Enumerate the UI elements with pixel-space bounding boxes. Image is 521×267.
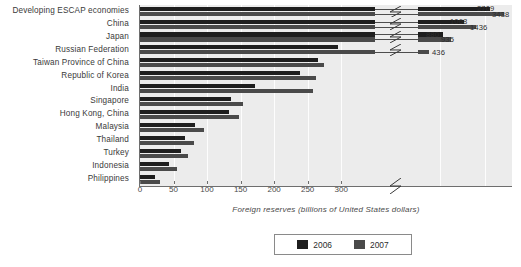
x-tick-label: 150 xyxy=(234,185,247,194)
value-label: 935 xyxy=(441,35,454,44)
bar-2006 xyxy=(140,136,185,140)
bar-row xyxy=(140,96,512,109)
value-label: 880 xyxy=(426,30,439,39)
category-label: Malaysia xyxy=(0,121,133,134)
bar-break-connector xyxy=(375,27,418,28)
bar-2007 xyxy=(140,12,375,16)
x-tick xyxy=(308,181,309,184)
bar-row xyxy=(140,134,512,147)
bar-break-connector xyxy=(375,22,418,23)
legend-item-2006: 2006 xyxy=(297,240,332,250)
category-label: Thailand xyxy=(0,134,133,147)
bar-2007-far-segment xyxy=(418,25,476,29)
category-label: Hong Kong, China xyxy=(0,108,133,121)
bar-2006 xyxy=(140,71,300,75)
x-tick-label: 0 xyxy=(138,185,142,194)
bar-2006 xyxy=(140,58,318,62)
x-axis-title: Foreign reserves (billions of United Sta… xyxy=(140,205,512,214)
bar-2007 xyxy=(140,63,324,67)
x-tick-label: 100 xyxy=(200,185,213,194)
bar-row xyxy=(140,147,512,160)
x-tick xyxy=(140,181,141,184)
bar-2006 xyxy=(140,32,375,36)
bar-row xyxy=(140,173,512,186)
x-tick xyxy=(341,181,342,184)
x-tick-label: 300 xyxy=(334,185,347,194)
bar-2007 xyxy=(140,89,313,93)
value-label: 1068 xyxy=(450,17,467,26)
category-label: Republic of Korea xyxy=(0,70,133,83)
bar-2006 xyxy=(140,149,181,153)
category-label: Russian Federation xyxy=(0,44,133,57)
bar-break-connector xyxy=(375,9,418,10)
bar-2006 xyxy=(140,110,229,114)
bar-2007 xyxy=(140,128,204,132)
x-tick-label: 200 xyxy=(267,185,280,194)
bar-2006 xyxy=(140,175,155,179)
x-tick xyxy=(241,181,242,184)
x-tick xyxy=(174,181,175,184)
value-label: 3438 xyxy=(492,10,509,19)
x-axis-line xyxy=(139,186,512,187)
x-tick-label: 50 xyxy=(169,185,178,194)
bar-2007 xyxy=(140,76,316,80)
bar-2007 xyxy=(140,37,375,41)
x-tick-label: 250 xyxy=(301,185,314,194)
legend-swatch-2006 xyxy=(297,240,308,249)
bar-break-connector xyxy=(375,39,418,40)
bar-2006 xyxy=(140,97,231,101)
bar-2007 xyxy=(140,102,243,106)
bar-2007-far-segment xyxy=(418,50,429,54)
category-label: Developing ESCAP economies xyxy=(0,5,133,18)
category-label: Singapore xyxy=(0,95,133,108)
bar-2006 xyxy=(140,84,255,88)
chart-legend: 2006 2007 xyxy=(274,234,412,255)
bar-2006 xyxy=(140,7,375,11)
legend-swatch-2007 xyxy=(354,240,365,249)
category-label: Turkey xyxy=(0,147,133,160)
bar-2006 xyxy=(140,162,169,166)
category-label: China xyxy=(0,18,133,31)
bar-2007 xyxy=(140,25,375,29)
legend-label-2006: 2006 xyxy=(313,240,332,250)
bar-row xyxy=(140,57,512,70)
plot-area: 2709343810681436880935436 xyxy=(140,5,512,186)
category-label: Indonesia xyxy=(0,160,133,173)
bar-2006 xyxy=(140,123,195,127)
bar-break-connector xyxy=(375,34,418,35)
bar-row xyxy=(140,31,512,44)
bar-row xyxy=(140,44,512,57)
legend-label-2007: 2007 xyxy=(370,240,389,250)
category-label: Taiwan Province of China xyxy=(0,57,133,70)
value-label: 1436 xyxy=(470,23,487,32)
category-label: Japan xyxy=(0,31,133,44)
bar-2007 xyxy=(140,141,194,145)
x-tick xyxy=(274,181,275,184)
category-axis-labels: Developing ESCAP economiesChinaJapanRuss… xyxy=(0,5,133,186)
bar-row xyxy=(140,160,512,173)
bar-2007 xyxy=(140,154,188,158)
category-label: Philippines xyxy=(0,173,133,186)
bar-2007 xyxy=(140,180,160,184)
x-tick xyxy=(207,181,208,184)
bar-2007 xyxy=(140,50,375,54)
value-label: 436 xyxy=(432,48,445,57)
bar-2007 xyxy=(140,167,177,171)
bar-row xyxy=(140,121,512,134)
chart-figure: Developing ESCAP economiesChinaJapanRuss… xyxy=(0,0,521,267)
bar-break-connector xyxy=(375,52,418,53)
bar-2006 xyxy=(140,45,338,49)
bar-break-connector xyxy=(375,14,418,15)
legend-item-2007: 2007 xyxy=(354,240,389,250)
bar-row xyxy=(140,83,512,96)
category-label: India xyxy=(0,83,133,96)
bar-2007 xyxy=(140,115,239,119)
bar-row xyxy=(140,108,512,121)
bar-2006 xyxy=(140,20,375,24)
bar-row xyxy=(140,70,512,83)
